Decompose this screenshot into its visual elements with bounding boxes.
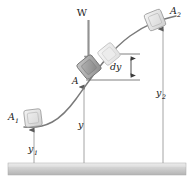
label-a1-main: A [7,111,15,122]
block-a2 [144,9,167,32]
label-y2-main: y [155,87,162,98]
label-y2-sub: 2 [161,93,166,100]
label-y1: y 1 [27,143,38,156]
weight-label: W [77,7,88,18]
label-a2-main: A [169,5,177,16]
label-point-a: A [71,76,79,86]
label-a1-sub: 1 [15,117,19,124]
label-a1: A 1 [7,111,19,124]
label-y2: y 2 [155,87,166,100]
label-y1-main: y [27,143,34,154]
label-dy: dy [110,61,122,72]
label-a2-sub: 2 [176,11,181,18]
block-a-current [76,54,102,80]
ground-slab [8,163,186,175]
label-y: y [77,119,84,130]
label-y1-sub: 1 [34,149,38,156]
block-a1 [24,109,43,128]
curved-path [24,16,176,127]
mechanics-diagram: W A 1 A 2 A y 1 y y 2 dy [0,0,194,185]
